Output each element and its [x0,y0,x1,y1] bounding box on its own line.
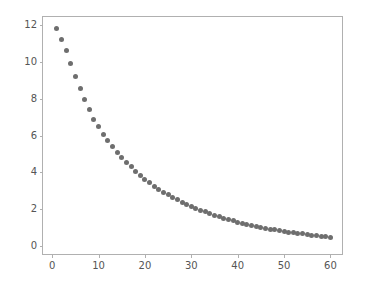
data-point [105,138,110,143]
y-axis-tick [40,246,44,247]
y-axis-tick [40,136,44,137]
data-point [124,160,129,165]
scatter-plot-area [43,17,342,254]
data-point [82,97,87,102]
y-axis-tick-label: 8 [31,94,37,104]
chart-figure: 0246810120102030405060 [0,0,371,286]
y-axis-tick-label: 0 [31,241,37,251]
x-axis-tick [52,254,53,258]
y-axis-tick-label: 2 [31,204,37,214]
data-point [101,132,106,137]
y-axis-tick-label: 10 [24,57,37,67]
data-point [119,155,124,160]
data-point [54,26,59,31]
data-point [115,150,120,155]
data-point [110,144,115,149]
data-point [68,61,73,66]
y-axis-tick [40,209,44,210]
y-axis-tick [40,99,44,100]
y-axis-tick [40,172,44,173]
x-axis-tick [191,254,192,258]
data-point [78,86,83,91]
data-point [91,117,96,122]
x-axis-tick [284,254,285,258]
y-axis-tick-label: 4 [31,167,37,177]
x-axis-tick-label: 0 [49,261,55,271]
plot-axes: 0246810120102030405060 [42,16,343,255]
x-axis-tick [99,254,100,258]
data-point [129,164,134,169]
data-point [59,37,64,42]
data-point [87,107,92,112]
data-point [328,235,333,240]
x-axis-tick-label: 60 [324,261,337,271]
x-axis-tick-label: 10 [92,261,105,271]
x-axis-tick [145,254,146,258]
data-point [64,48,69,53]
data-point [96,124,101,129]
x-axis-tick-label: 30 [185,261,198,271]
y-axis-tick-label: 12 [24,20,37,30]
x-axis-tick [238,254,239,258]
x-axis-tick-label: 50 [278,261,291,271]
y-axis-tick-label: 6 [31,131,37,141]
x-axis-tick-label: 40 [231,261,244,271]
y-axis-tick [40,62,44,63]
x-axis-tick [330,254,331,258]
data-point [73,74,78,79]
x-axis-tick-label: 20 [139,261,152,271]
y-axis-tick [40,25,44,26]
